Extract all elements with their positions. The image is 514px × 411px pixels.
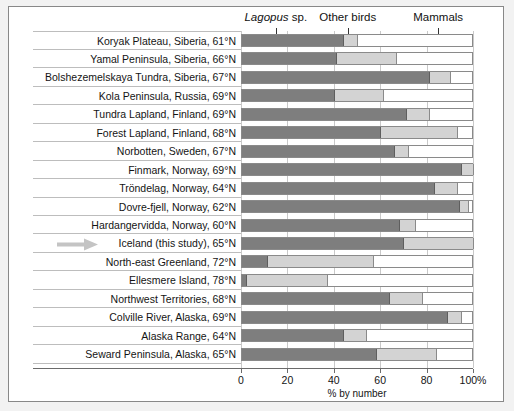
bar-row bbox=[241, 255, 473, 268]
x-tick-20 bbox=[287, 369, 288, 373]
bar-segment-lagopus bbox=[242, 53, 337, 64]
row-separator bbox=[33, 289, 241, 290]
x-tick-label: 40 bbox=[328, 374, 340, 386]
category-label: Northwest Territories, 68°N bbox=[37, 293, 236, 305]
category-label: Koryak Plateau, Siberia, 61°N bbox=[37, 35, 236, 47]
bar-segment-lagopus bbox=[242, 330, 344, 341]
bar-segment-other-birds bbox=[448, 312, 462, 323]
category-label: Hardangervidda, Norway, 60°N bbox=[37, 219, 236, 231]
row-separator bbox=[33, 215, 241, 216]
bar-segment-other-birds bbox=[404, 238, 474, 249]
bar-segment-other-birds bbox=[344, 35, 358, 46]
category-label: Tundra Lapland, Finland, 69°N bbox=[37, 108, 236, 120]
bar-row bbox=[241, 145, 473, 158]
highlight-arrow-icon bbox=[57, 237, 99, 255]
bar-segment-other-birds bbox=[344, 330, 367, 341]
bar-row bbox=[241, 52, 473, 65]
bar-segment-other-birds bbox=[435, 183, 458, 194]
row-separator bbox=[33, 363, 241, 364]
bar-segment-lagopus bbox=[242, 349, 377, 360]
category-label: Tröndelag, Norway, 64°N bbox=[37, 182, 236, 194]
bar-row bbox=[241, 311, 473, 324]
x-tick-40 bbox=[334, 369, 335, 373]
bar-segment-other-birds bbox=[268, 256, 375, 267]
bar-segment-lagopus bbox=[242, 201, 460, 212]
bar-row bbox=[241, 219, 473, 232]
bar-segment-other-birds bbox=[247, 275, 328, 286]
category-label: Forest Lapland, Finland, 68°N bbox=[37, 127, 236, 139]
x-tick-label: 100% bbox=[460, 374, 487, 386]
category-label: Norbotten, Sweden, 67°N bbox=[37, 145, 236, 157]
bar-row bbox=[241, 89, 473, 102]
category-label: Colville River, Alaska, 69°N bbox=[37, 311, 236, 323]
bar-segment-other-birds bbox=[395, 146, 409, 157]
row-separator bbox=[33, 86, 241, 87]
x-axis-line bbox=[33, 368, 473, 369]
category-label: Finmark, Norway, 69°N bbox=[37, 164, 236, 176]
row-separator bbox=[33, 178, 241, 179]
x-tick-0 bbox=[241, 369, 242, 373]
bar-segment-lagopus bbox=[242, 293, 390, 304]
bar-segment-lagopus bbox=[242, 109, 407, 120]
category-label: Yamal Peninsula, Siberia, 66°N bbox=[37, 53, 236, 65]
x-tick-60 bbox=[380, 369, 381, 373]
bar-row bbox=[241, 329, 473, 342]
bar-segment-other-birds bbox=[337, 53, 397, 64]
bar-row bbox=[241, 237, 473, 250]
row-separator bbox=[33, 141, 241, 142]
bar-segment-other-birds bbox=[390, 293, 422, 304]
bar-row bbox=[241, 108, 473, 121]
bar-segment-lagopus bbox=[242, 164, 462, 175]
bar-row bbox=[241, 182, 473, 195]
bar-segment-lagopus bbox=[242, 35, 344, 46]
bar-segment-lagopus bbox=[242, 90, 335, 101]
row-separator bbox=[33, 160, 241, 161]
bar-segment-other-birds bbox=[381, 127, 458, 138]
row-separator bbox=[33, 307, 241, 308]
category-label: Kola Peninsula, Russia, 69°N bbox=[37, 90, 236, 102]
category-label: North-east Greenland, 72°N bbox=[37, 256, 236, 268]
row-separator bbox=[33, 67, 241, 68]
bar-row bbox=[241, 348, 473, 361]
bar-segment-other-birds bbox=[400, 220, 416, 231]
x-tick-100 bbox=[473, 369, 474, 373]
row-separator bbox=[33, 104, 241, 105]
bar-segment-lagopus bbox=[242, 183, 435, 194]
x-tick-label: 60 bbox=[374, 374, 386, 386]
row-separator bbox=[33, 31, 241, 32]
row-separator bbox=[33, 197, 241, 198]
bar-segment-other-birds bbox=[335, 90, 384, 101]
figure-background: Lagopus sp.Other birdsMammals Koryak Pla… bbox=[0, 0, 514, 411]
x-axis-title: % by number bbox=[328, 388, 387, 399]
x-tick-80 bbox=[427, 369, 428, 373]
bar-row bbox=[241, 200, 473, 213]
x-tick-label: 80 bbox=[421, 374, 433, 386]
bar-segment-lagopus bbox=[242, 127, 381, 138]
bar-segment-lagopus bbox=[242, 72, 430, 83]
bar-segment-other-birds bbox=[407, 109, 430, 120]
row-separator bbox=[33, 233, 241, 234]
category-label: Alaska Range, 64°N bbox=[37, 330, 236, 342]
bar-segment-other-birds bbox=[460, 201, 469, 212]
bar-row bbox=[241, 274, 473, 287]
gridline-100 bbox=[473, 31, 474, 368]
category-label: Bolshezemelskaya Tundra, Siberia, 67°N bbox=[37, 71, 236, 83]
x-tick-label: 0 bbox=[238, 374, 244, 386]
plot-area: Koryak Plateau, Siberia, 61°NYamal Penin… bbox=[9, 7, 514, 411]
bar-segment-lagopus bbox=[242, 220, 400, 231]
bar-segment-lagopus bbox=[242, 238, 404, 249]
row-separator bbox=[33, 49, 241, 50]
row-separator bbox=[33, 344, 241, 345]
bar-row bbox=[241, 34, 473, 47]
category-label: Dovre-fjell, Norway, 62°N bbox=[37, 201, 236, 213]
row-separator bbox=[33, 270, 241, 271]
bar-segment-other-birds bbox=[462, 164, 474, 175]
category-label: Seward Peninsula, Alaska, 65°N bbox=[37, 348, 236, 360]
chart-frame: Lagopus sp.Other birdsMammals Koryak Pla… bbox=[8, 6, 504, 402]
bar-segment-lagopus bbox=[242, 312, 448, 323]
bar-segment-other-birds bbox=[430, 72, 451, 83]
row-separator bbox=[33, 123, 241, 124]
row-separator bbox=[33, 326, 241, 327]
bar-segment-other-birds bbox=[377, 349, 437, 360]
bar-segment-lagopus bbox=[242, 146, 395, 157]
